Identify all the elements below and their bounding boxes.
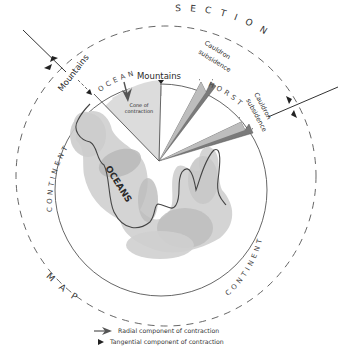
mountains-left-label: Mountains — [56, 52, 91, 93]
legend-tangential-text: Tangential component of contraction — [110, 338, 224, 345]
legend-radial-text: Radial component of contraction — [118, 327, 219, 334]
section-line-right — [268, 87, 338, 117]
tangential-arrow-left-2 — [44, 64, 52, 70]
continent-right-label: CONTINENT — [224, 235, 265, 297]
tangential-arrow-right-2 — [291, 110, 297, 118]
radial-arrow-icon — [88, 326, 116, 336]
tangential-arrow-mountain-left — [86, 89, 92, 95]
section-label: SECTION — [175, 3, 276, 41]
horst-label: HORST — [207, 80, 246, 109]
mountains-top-label: Mountains — [137, 71, 182, 81]
tangential-arrow-right-1 — [286, 96, 292, 104]
contraction-diagram: SECTION MAP OCEAN HORST CONTINENT CONTIN… — [0, 0, 346, 358]
legend: Radial component of contraction Tangenti… — [88, 326, 288, 348]
cone-label-line2: contraction — [125, 108, 153, 114]
legend-radial: Radial component of contraction — [88, 326, 288, 337]
tangential-arrow-icon — [88, 337, 108, 347]
legend-tangential: Tangential component of contraction — [88, 337, 288, 348]
section-line-left — [23, 30, 66, 72]
wedge-dots — [199, 79, 254, 129]
map-label: MAP — [45, 271, 87, 307]
continent-left-label: CONTINENT — [46, 142, 71, 212]
